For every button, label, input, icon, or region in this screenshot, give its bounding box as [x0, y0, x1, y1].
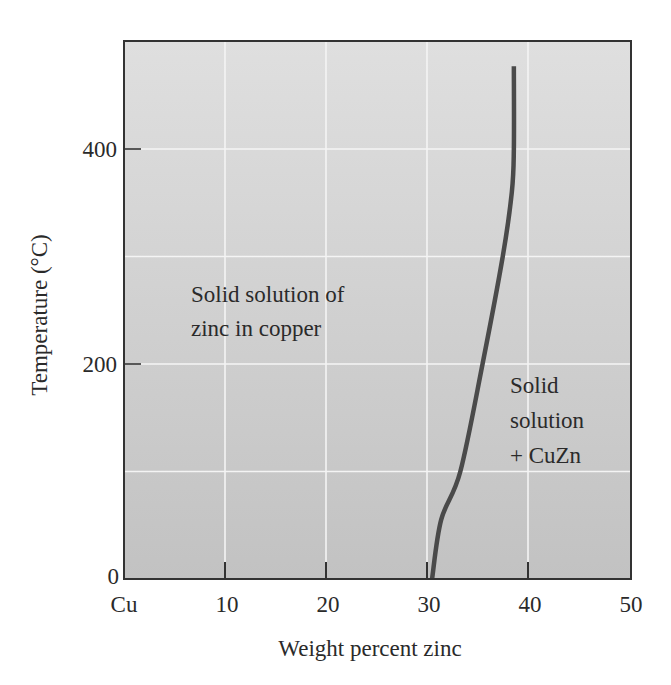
x-tick-label: 40 [519, 592, 542, 617]
x-tick-label: Cu [111, 592, 138, 617]
x-tick-label: 10 [216, 592, 239, 617]
x-tick-label: 30 [418, 592, 441, 617]
x-tick-label: 50 [620, 592, 643, 617]
y-tick-label: 400 [83, 137, 118, 162]
region-label-solid-solution: Solid solution of [191, 282, 345, 307]
plot-area [124, 41, 631, 579]
phase-diagram-chart: Cu1020304050 0200400 Weight percent zinc… [0, 0, 671, 685]
x-tick-label: 20 [317, 592, 340, 617]
x-axis-title: Weight percent zinc [278, 636, 461, 661]
region-label-solid-solution: zinc in copper [191, 316, 322, 341]
region-label-two-phase: + CuZn [510, 443, 582, 468]
y-tick-labels: 0200400 [83, 137, 120, 589]
region-label-two-phase: Solid [510, 373, 559, 398]
region-label-two-phase: solution [510, 408, 585, 433]
y-tick-label: 200 [83, 352, 118, 377]
x-tick-labels: Cu1020304050 [111, 592, 643, 617]
y-axis-title: Temperature (°C) [27, 234, 52, 395]
y-tick-label: 0 [108, 564, 120, 589]
